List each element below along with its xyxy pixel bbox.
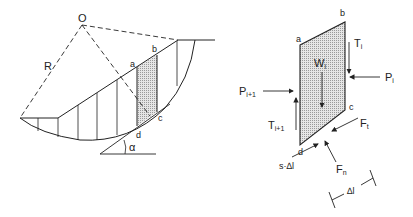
slice-body	[300, 22, 345, 145]
resistance-arrow	[292, 144, 318, 157]
radius-label: R	[44, 60, 52, 72]
center-label: O	[78, 12, 87, 24]
normal-base-force-arrow	[325, 141, 336, 162]
dimension-line-right	[361, 178, 373, 185]
tangential-force-arrow	[332, 118, 358, 131]
resistance-label: s·∆l	[279, 161, 294, 171]
angle-arc	[124, 140, 126, 154]
shear-force-i1-label: Ti+1	[268, 119, 284, 132]
normal-base-force-label: Fn	[336, 163, 347, 176]
slice-width-label: ∆l	[347, 186, 355, 196]
shear-force-i-label: Ti	[354, 37, 363, 50]
dimension-line-left	[332, 194, 344, 200]
slope-figure: O R a b c d α	[20, 12, 215, 154]
point-label-d: d	[136, 130, 141, 140]
slip-surface-arc	[20, 40, 195, 140]
normal-force-i-label: Pi	[385, 71, 394, 84]
normal-force-i1-label: Pi+1	[239, 85, 256, 98]
ground-surface	[20, 40, 215, 118]
point-label-b: b	[152, 44, 157, 54]
slice-method-diagram: O R a b c d α a b c d Wi Ti Pi Pi+1 Ti+1…	[0, 0, 413, 217]
fbd-point-c: c	[349, 102, 354, 112]
fbd-point-b: b	[340, 8, 345, 18]
point-label-c: c	[158, 113, 163, 123]
slice-free-body-diagram: a b c d Wi Ti Pi Pi+1 Ti+1 Ft s·∆l Fn	[239, 8, 394, 208]
tangential-force-label: Ft	[360, 117, 369, 130]
point-label-a: a	[130, 59, 135, 69]
fbd-point-a: a	[296, 34, 301, 44]
angle-label: α	[129, 141, 136, 153]
radius-line-right	[82, 25, 178, 40]
